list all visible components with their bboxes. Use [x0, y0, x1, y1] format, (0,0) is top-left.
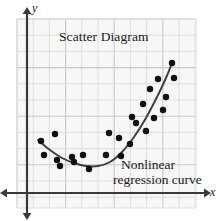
- scatter-point: [151, 115, 157, 121]
- y-axis-label: y: [32, 2, 37, 15]
- scatter-point: [41, 152, 47, 158]
- y-axis-arrow-up-icon: [23, 7, 32, 14]
- scatter-point: [169, 60, 175, 66]
- scatter-point: [155, 76, 161, 82]
- scatter-point: [106, 130, 112, 136]
- scatter-point: [80, 152, 86, 158]
- scatter-point: [103, 152, 109, 158]
- scatter-diagram-figure: Scatter Diagram Nonlinear regression cur…: [0, 0, 223, 221]
- scatter-point: [38, 138, 44, 144]
- scatter-point: [171, 75, 177, 81]
- scatter-point: [52, 131, 58, 137]
- regression-curve-annotation: Nonlinear regression curve: [121, 157, 202, 187]
- scatter-point: [127, 141, 133, 147]
- scatter-point: [57, 163, 63, 169]
- x-axis-label: x: [210, 186, 215, 199]
- scatter-point: [160, 107, 166, 113]
- y-axis-arrow-down-icon: [23, 213, 32, 220]
- scatter-point: [143, 128, 149, 134]
- scatter-point: [54, 157, 60, 163]
- scatter-point: [163, 94, 169, 100]
- scatter-point: [133, 120, 139, 126]
- scatter-point: [147, 86, 153, 92]
- x-axis-arrow-left-icon: [0, 189, 7, 198]
- regression-curve-annotation-line1: Nonlinear: [121, 157, 175, 172]
- scatter-point: [140, 101, 146, 107]
- scatter-point: [116, 135, 122, 141]
- scatter-point: [71, 159, 77, 165]
- scatter-point: [86, 166, 92, 172]
- regression-curve-annotation-line2: regression curve: [113, 172, 202, 187]
- scatter-point: [129, 114, 135, 120]
- scatter-diagram-title: Scatter Diagram: [59, 29, 149, 44]
